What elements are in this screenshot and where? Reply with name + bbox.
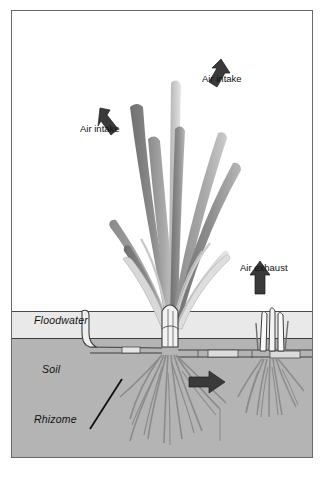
layer-label-floodwater: Floodwater <box>34 314 88 326</box>
plant-illustration <box>12 11 313 458</box>
annotation-air-intake-left: Air intake <box>80 123 120 134</box>
main-root-system <box>120 355 226 445</box>
leaf-cluster <box>109 81 241 331</box>
figure-frame: Floodwater Soil Rhizome Air intake Air i… <box>11 10 313 458</box>
plant-stem <box>162 305 178 347</box>
rhizome-leader-line <box>90 379 122 429</box>
secondary-tiller-shoots <box>256 308 288 351</box>
layer-label-soil: Soil <box>42 363 60 375</box>
diagram-canvas: Floodwater Soil Rhizome Air intake Air i… <box>0 0 324 478</box>
annotation-air-intake-right: Air intake <box>202 73 242 84</box>
layer-label-rhizome: Rhizome <box>34 413 77 425</box>
soil-flow-arrow <box>189 371 225 393</box>
secondary-root-system <box>238 359 304 417</box>
annotation-air-exhaust: Air exhaust <box>240 262 288 273</box>
